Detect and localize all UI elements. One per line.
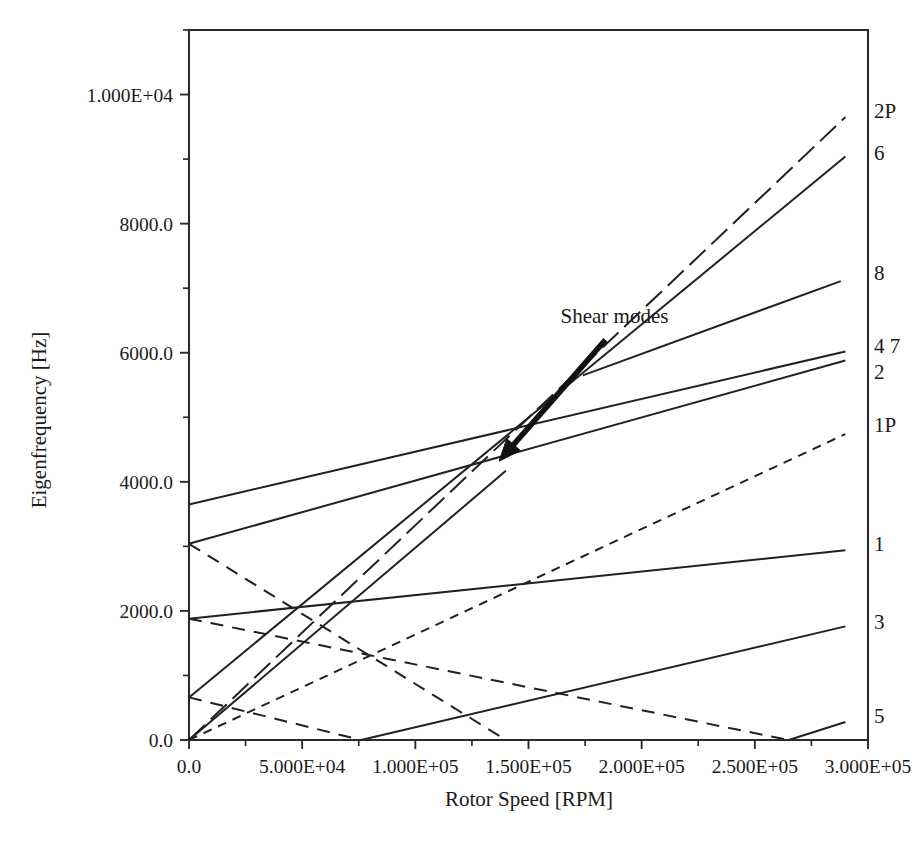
chart-annotations: Shear modes bbox=[499, 304, 668, 461]
y-tick-label-0: 0.0 bbox=[149, 730, 173, 751]
plot-frame bbox=[189, 30, 868, 740]
x-axis-title: Rotor Speed [RPM] bbox=[445, 787, 613, 811]
x-tick-label-5: 2.500E+05 bbox=[712, 756, 798, 777]
plot-border bbox=[189, 30, 868, 740]
curve-label-1P: 1P bbox=[874, 413, 896, 437]
chart-canvas: Shear modes 2P684 721P135 0.05.000E+041.… bbox=[0, 0, 914, 843]
x-tick-label-2: 1.000E+05 bbox=[372, 756, 458, 777]
x-tick-label-3: 1.500E+05 bbox=[485, 756, 571, 777]
y-tick-label-4: 8000.0 bbox=[119, 214, 173, 235]
curve-label-6: 6 bbox=[874, 141, 885, 165]
curve-label-5: 5 bbox=[874, 704, 885, 728]
axis-ticks bbox=[180, 30, 868, 749]
curve-labels: 2P684 721P135 bbox=[874, 99, 900, 728]
curve-forward-steep bbox=[189, 471, 506, 740]
y-tick-label-3: 6000.0 bbox=[119, 343, 173, 364]
chart-curves bbox=[189, 117, 845, 740]
curve-4 bbox=[189, 351, 845, 504]
curve-backward-whirl-b bbox=[189, 619, 789, 740]
y-tick-label-2: 4000.0 bbox=[119, 472, 173, 493]
annotation-text-shear-modes: Shear modes bbox=[561, 304, 669, 328]
curve-3 bbox=[361, 626, 845, 740]
curve-label-2P: 2P bbox=[874, 99, 896, 123]
campbell-diagram-figure: Shear modes 2P684 721P135 0.05.000E+041.… bbox=[0, 0, 914, 843]
curve-backward-whirl-a bbox=[189, 544, 506, 740]
curve-label-2: 2 bbox=[874, 360, 885, 384]
y-axis-title: Eigenfrequency [Hz] bbox=[27, 332, 51, 509]
annotation-arrow-shaft-shear-modes bbox=[510, 340, 606, 449]
curve-label-8: 8 bbox=[874, 261, 885, 285]
curve-1P bbox=[189, 434, 845, 740]
y-tick-label-5: 1.000E+04 bbox=[87, 85, 174, 106]
x-tick-label-1: 5.000E+04 bbox=[259, 756, 346, 777]
axis-tick-labels: 0.05.000E+041.000E+051.500E+052.000E+052… bbox=[87, 85, 911, 777]
x-tick-label-6: 3.000E+05 bbox=[825, 756, 911, 777]
curve-1 bbox=[189, 550, 845, 618]
x-tick-label-4: 2.000E+05 bbox=[599, 756, 685, 777]
curve-label-3: 3 bbox=[874, 610, 885, 634]
y-tick-label-1: 2000.0 bbox=[119, 601, 173, 622]
curve-5 bbox=[789, 722, 846, 740]
curve-label-4: 4 7 bbox=[874, 334, 900, 358]
curve-label-1: 1 bbox=[874, 532, 885, 556]
x-tick-label-0: 0.0 bbox=[177, 756, 201, 777]
